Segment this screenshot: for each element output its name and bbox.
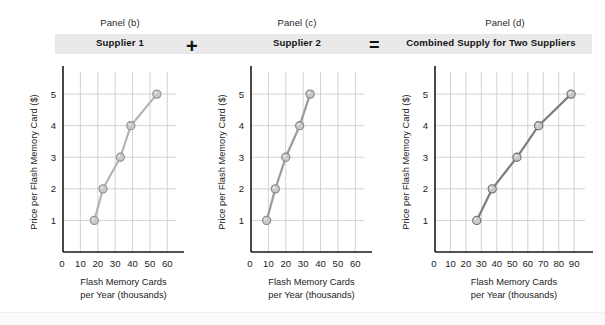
- chart-d-xtick-20: 20: [461, 258, 472, 269]
- panel-c-caption: Panel (c): [232, 17, 362, 28]
- chart-b-svg: 010203040506012345 Price per Flash Memor…: [8, 62, 193, 320]
- equals-operator-icon: =: [369, 36, 379, 54]
- chart-c-xlabel-line2: per Year (thousands): [268, 290, 354, 300]
- chart-c-ticklabels: 010203040506012345: [239, 89, 361, 269]
- chart-d-xtick-50: 50: [507, 258, 518, 269]
- chart-b-grid: [63, 72, 176, 252]
- chart-b-xtick-20: 20: [92, 258, 103, 269]
- chart-d-xtick-10: 10: [445, 258, 456, 269]
- chart-c-xtick-0: 0: [247, 258, 252, 269]
- chart-d-ytick-5: 5: [423, 89, 428, 100]
- chart-c-ytick-5: 5: [239, 89, 244, 100]
- chart-b-ylabel: Price per Flash Memory Card ($): [29, 94, 39, 229]
- chart-c-ytick-4: 4: [239, 120, 245, 131]
- chart-supplier-1: 010203040506012345 Price per Flash Memor…: [8, 62, 193, 320]
- chart-d-ytick-2: 2: [423, 183, 428, 194]
- chart-b-xtick-10: 10: [75, 258, 86, 269]
- chart-b-ytick-3: 3: [51, 152, 56, 163]
- chart-b-xtick-30: 30: [110, 258, 121, 269]
- chart-d-ytick-3: 3: [423, 152, 428, 163]
- supply-curves-figure: Panel (b) Panel (c) Panel (d) Supplier 1…: [0, 0, 605, 325]
- chart-d-xlabel-line2: per Year (thousands): [471, 290, 557, 300]
- chart-d-xtick-40: 40: [492, 258, 503, 269]
- chart-d-xtick-70: 70: [538, 258, 549, 269]
- chart-c-svg: 010203040506012345 Price per Flash Memor…: [196, 62, 381, 320]
- chart-c-ylabel: Price per Flash Memory Card ($): [217, 94, 227, 229]
- chart-b-xlabel-line2: per Year (thousands): [80, 290, 166, 300]
- chart-b-xtick-40: 40: [127, 258, 138, 269]
- chart-c-ytick-3: 3: [239, 152, 244, 163]
- chart-c-xtick-30: 30: [298, 258, 309, 269]
- chart-b-ytick-4: 4: [51, 120, 57, 131]
- chart-d-xtick-60: 60: [522, 258, 533, 269]
- panel-b-title: Supplier 1: [55, 37, 185, 48]
- plus-operator-icon: +: [186, 36, 198, 56]
- chart-b-ytick-5: 5: [51, 89, 56, 100]
- chart-supplier-2: 010203040506012345 Price per Flash Memor…: [196, 62, 381, 320]
- chart-b-xtick-50: 50: [145, 258, 156, 269]
- chart-b-ticklabels: 010203040506012345: [51, 89, 173, 269]
- chart-d-xtick-90: 90: [569, 258, 580, 269]
- chart-b-xlabel-line1: Flash Memory Cards: [80, 277, 167, 287]
- chart-d-xtick-80: 80: [553, 258, 564, 269]
- chart-c-xtick-40: 40: [315, 258, 326, 269]
- chart-c-xtick-20: 20: [280, 258, 291, 269]
- chart-d-grid: [435, 72, 585, 252]
- chart-c-xlabel-line1: Flash Memory Cards: [268, 277, 355, 287]
- chart-combined-supply: 010203040506070809012345 Price per Flash…: [380, 62, 602, 320]
- chart-d-xlabel-line1: Flash Memory Cards: [471, 277, 558, 287]
- page-bottom-edge: [0, 312, 605, 325]
- chart-c-ytick-1: 1: [239, 215, 244, 226]
- chart-d-ytick-1: 1: [423, 215, 428, 226]
- chart-d-ylabel: Price per Flash Memory Card ($): [401, 94, 411, 229]
- chart-c-ytick-2: 2: [239, 183, 244, 194]
- panel-b-caption: Panel (b): [55, 17, 185, 28]
- chart-d-ytick-4: 4: [423, 120, 429, 131]
- chart-b-ytick-1: 1: [51, 215, 56, 226]
- chart-c-xtick-50: 50: [333, 258, 344, 269]
- chart-c-xtick-60: 60: [350, 258, 361, 269]
- chart-b-xtick-60: 60: [162, 258, 173, 269]
- chart-d-xtick-0: 0: [431, 258, 436, 269]
- chart-b-ytick-2: 2: [51, 183, 56, 194]
- chart-c-xtick-10: 10: [263, 258, 274, 269]
- chart-d-svg: 010203040506070809012345 Price per Flash…: [380, 62, 602, 320]
- panel-d-title: Combined Supply for Two Suppliers: [393, 37, 589, 48]
- chart-d-xtick-30: 30: [476, 258, 487, 269]
- panel-c-title: Supplier 2: [232, 37, 362, 48]
- chart-b-xtick-0: 0: [59, 258, 64, 269]
- panel-d-caption: Panel (d): [420, 17, 590, 28]
